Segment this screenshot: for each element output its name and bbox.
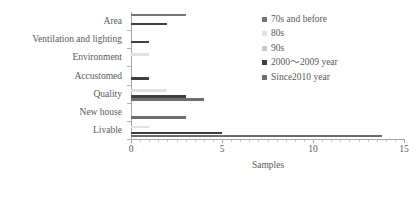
- y-axis-tick: [127, 66, 131, 67]
- x-axis-minor-tick: [386, 140, 387, 142]
- bar: [131, 89, 167, 92]
- legend-item[interactable]: 90s: [262, 41, 412, 56]
- legend-swatch-icon: [262, 75, 267, 80]
- x-axis-tick-label: 10: [308, 144, 318, 155]
- bar-chart: AreaVentilation and lightingEnvironmentA…: [0, 0, 416, 197]
- bar: [131, 135, 382, 138]
- x-axis-minor-tick: [268, 140, 269, 142]
- legend-item[interactable]: 70s and before: [262, 12, 412, 27]
- x-axis-minor-tick: [286, 140, 287, 142]
- x-axis-minor-tick: [249, 140, 250, 142]
- y-axis-labels: AreaVentilation and lightingEnvironmentA…: [0, 12, 127, 139]
- bar: [131, 53, 149, 56]
- x-axis-tick: [404, 140, 405, 143]
- x-axis-minor-tick: [322, 140, 323, 142]
- y-axis-tick: [127, 139, 131, 140]
- x-axis-tick-label: 5: [220, 144, 225, 155]
- x-axis-minor-tick: [186, 140, 187, 142]
- x-axis-minor-tick: [149, 140, 150, 142]
- y-axis-tick: [127, 85, 131, 86]
- x-axis-minor-tick: [331, 140, 332, 142]
- legend-swatch-icon: [262, 60, 267, 65]
- x-axis-minor-tick: [377, 140, 378, 142]
- x-axis-minor-tick: [295, 140, 296, 142]
- x-axis-tick-label: 15: [399, 144, 409, 155]
- legend-label: 90s: [271, 43, 284, 54]
- x-axis-minor-tick: [177, 140, 178, 142]
- legend-item[interactable]: 80s: [262, 27, 412, 42]
- legend-label: 70s and before: [271, 14, 327, 25]
- x-axis-minor-tick: [304, 140, 305, 142]
- x-axis-minor-tick: [340, 140, 341, 142]
- x-axis-minor-tick: [359, 140, 360, 142]
- x-axis-minor-tick: [158, 140, 159, 142]
- bar: [131, 41, 149, 44]
- x-axis-minor-tick: [349, 140, 350, 142]
- x-axis-minor-tick: [140, 140, 141, 142]
- legend-label: Since2010 year: [271, 72, 330, 83]
- legend-swatch-icon: [262, 17, 267, 22]
- y-axis-tick-label: Ventilation and lighting: [32, 34, 122, 44]
- y-axis-tick: [127, 121, 131, 122]
- legend-label: 80s: [271, 28, 284, 39]
- y-axis-tick: [127, 30, 131, 31]
- legend-item[interactable]: 2000～2009 year: [262, 56, 412, 71]
- bar: [131, 14, 186, 17]
- x-axis-tick: [222, 140, 223, 143]
- legend-item[interactable]: Since2010 year: [262, 70, 412, 85]
- x-axis-minor-tick: [167, 140, 168, 142]
- legend-swatch-icon: [262, 46, 267, 51]
- bar: [131, 116, 186, 119]
- y-axis-tick-label: New house: [80, 107, 122, 117]
- legend-label: 2000～2009 year: [271, 57, 338, 68]
- y-axis-tick: [127, 48, 131, 49]
- x-axis-minor-tick: [240, 140, 241, 142]
- x-axis-minor-tick: [231, 140, 232, 142]
- chart-legend: 70s and before80s90s2000～2009 yearSince2…: [262, 12, 412, 85]
- x-axis-minor-tick: [368, 140, 369, 142]
- bar: [131, 77, 149, 80]
- x-axis-minor-tick: [395, 140, 396, 142]
- bar: [131, 23, 167, 26]
- x-axis-tick: [131, 140, 132, 143]
- y-axis-tick-label: Area: [104, 16, 122, 26]
- x-axis-title: Samples: [131, 160, 405, 170]
- x-axis-minor-tick: [213, 140, 214, 142]
- x-axis-minor-tick: [204, 140, 205, 142]
- x-axis-minor-tick: [258, 140, 259, 142]
- y-axis-tick: [127, 103, 131, 104]
- bar: [131, 126, 149, 129]
- y-axis-tick-label: Quality: [94, 89, 123, 99]
- x-axis-minor-tick: [277, 140, 278, 142]
- y-axis-tick-label: Accustomed: [75, 71, 123, 81]
- x-axis-minor-tick: [195, 140, 196, 142]
- bar: [131, 98, 204, 101]
- x-axis-tick-label: 0: [129, 144, 134, 155]
- y-axis-tick-label: Livable: [93, 125, 122, 135]
- y-axis-tick-label: Environment: [72, 52, 122, 62]
- legend-swatch-icon: [262, 31, 267, 36]
- x-axis-tick: [313, 140, 314, 143]
